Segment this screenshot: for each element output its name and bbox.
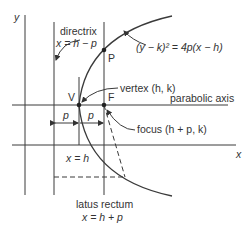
vertex-point (77, 103, 82, 108)
focus-label: focus (h + p, k) (137, 123, 207, 135)
directrix-title: directrix (60, 25, 97, 37)
directrix-equation: x = h − p (56, 37, 97, 49)
latus-rectum-equation: x = h + p (82, 211, 123, 223)
latus-rectum-title: latus rectum (76, 198, 133, 210)
x-axis-label: x (236, 148, 241, 160)
p-left-label: p (63, 109, 69, 121)
p-right-label: p (88, 109, 94, 121)
focus-point (102, 103, 107, 108)
vertex-line-equation: x = h (66, 152, 89, 164)
equation-label: (y − k)² = 4p(x − h) (136, 41, 223, 53)
point-p (102, 48, 107, 53)
vertex-label: vertex (h, k) (120, 82, 175, 94)
parabola-diagram (0, 0, 252, 230)
parabolic-axis-label: parabolic axis (170, 92, 234, 104)
vertex-letter: V (68, 91, 75, 103)
y-axis-label: y (14, 11, 19, 23)
focus-letter: F (108, 91, 114, 103)
point-p-label: P (108, 52, 115, 64)
